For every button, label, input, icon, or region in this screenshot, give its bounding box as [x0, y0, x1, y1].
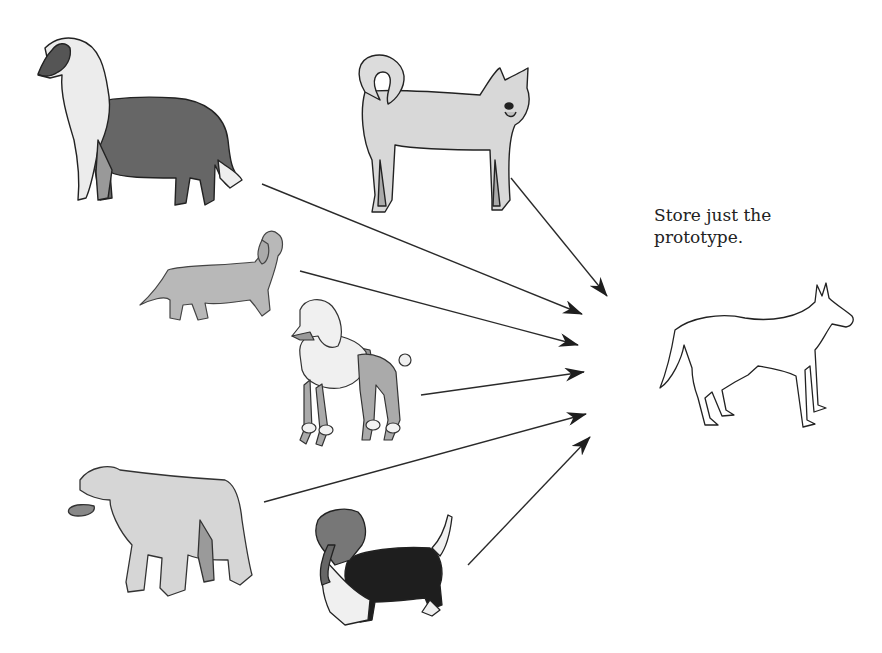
- caption-line-1: Store just the: [654, 204, 771, 226]
- bulldog-dog-icon: [68, 467, 252, 596]
- arrow-collie-to-prototype: [262, 184, 582, 314]
- arrow-basset-to-prototype: [468, 437, 590, 565]
- collie-dog-icon: [38, 38, 242, 205]
- poodle-dog-icon: [292, 300, 411, 446]
- caption-line-2: prototype.: [654, 226, 771, 248]
- caption: Store just the prototype.: [654, 204, 771, 248]
- prototype-diagram: Store just the prototype.: [0, 0, 882, 653]
- husky-dog-icon: [359, 55, 529, 212]
- arrow-husky-to-prototype: [511, 178, 607, 296]
- arrow-poodle-to-prototype: [421, 372, 584, 395]
- diagram-canvas: [0, 0, 882, 653]
- dachshund-dog-icon: [140, 231, 283, 320]
- basset-hound-dog-icon: [316, 509, 452, 625]
- prototype-dog-icon: [660, 283, 853, 427]
